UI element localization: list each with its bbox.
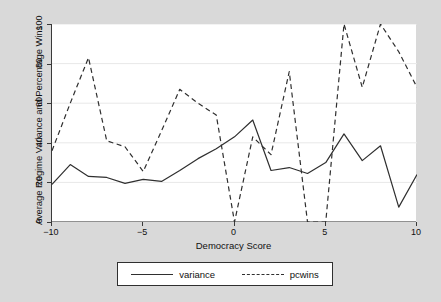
legend-key-dashed-icon (242, 274, 284, 275)
x-axis-tick-label: −5 (127, 227, 157, 237)
x-axis-tick-mark (234, 222, 235, 226)
y-axis-tick-label: 60 (34, 89, 44, 115)
x-axis-tick-mark (51, 222, 52, 226)
y-axis-tick-label: 40 (34, 129, 44, 155)
legend-item-variance[interactable]: variance (131, 269, 215, 280)
x-axis-tick-label: 5 (310, 227, 340, 237)
x-axis-label: Democracy Score (51, 240, 416, 251)
series-lines (52, 24, 417, 222)
gridlines (52, 24, 417, 222)
legend-label: pcwins (290, 269, 319, 280)
x-axis-tick-mark (416, 222, 417, 226)
plot-region (51, 24, 416, 222)
x-axis-tick-mark (325, 222, 326, 226)
chart-legend: variance pcwins (117, 262, 333, 286)
x-axis-tick-mark (142, 222, 143, 226)
legend-key-solid-icon (131, 274, 173, 275)
y-axis-tick-label: 20 (34, 168, 44, 194)
legend-item-pcwins[interactable]: pcwins (242, 269, 319, 280)
x-axis-tick-label: −10 (36, 227, 66, 237)
x-axis-tick-label: 0 (219, 227, 249, 237)
y-axis-tick-label: 80 (34, 50, 44, 76)
chart-figure: Average Regime Variance and Percentage W… (0, 0, 441, 302)
legend-label: variance (179, 269, 215, 280)
x-axis-tick-label: 10 (401, 227, 431, 237)
plot-svg (52, 24, 417, 222)
y-axis-tick-label: 100 (34, 10, 44, 36)
series-line-pcwins (52, 24, 417, 222)
series-line-variance (52, 120, 417, 207)
